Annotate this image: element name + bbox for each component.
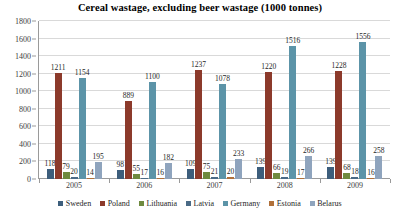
bar-estonia[interactable] bbox=[367, 178, 374, 179]
bar-sweden[interactable] bbox=[187, 169, 194, 179]
bar-latvia[interactable] bbox=[351, 177, 358, 179]
bar-lithuania[interactable] bbox=[63, 172, 70, 179]
bar-value-label: 19 bbox=[281, 168, 289, 176]
bar-belarus[interactable] bbox=[165, 163, 172, 179]
bar-slot: 139 bbox=[257, 21, 264, 179]
bar-poland[interactable] bbox=[125, 101, 132, 179]
legend-item-sweden[interactable]: Sweden bbox=[58, 199, 91, 208]
bar-slot: 98 bbox=[117, 21, 124, 179]
bar-value-label: 55 bbox=[133, 165, 141, 173]
bar-germany[interactable] bbox=[289, 46, 296, 179]
legend-label: Belarus bbox=[317, 199, 341, 208]
bar-value-label: 266 bbox=[303, 147, 314, 155]
bar-sweden[interactable] bbox=[257, 167, 264, 179]
bar-poland[interactable] bbox=[55, 73, 62, 179]
bar-belarus[interactable] bbox=[235, 159, 242, 179]
bar-belarus[interactable] bbox=[375, 156, 382, 179]
bar-poland[interactable] bbox=[195, 70, 202, 179]
y-tick-label: 1600 bbox=[15, 34, 31, 43]
legend-label: Poland bbox=[108, 199, 130, 208]
y-tick-label: 1800 bbox=[15, 17, 31, 26]
bar-germany[interactable] bbox=[359, 42, 366, 179]
y-tick-mark bbox=[32, 56, 36, 57]
bar-value-label: 17 bbox=[297, 169, 305, 177]
bar-slot: 79 bbox=[63, 21, 70, 179]
bar-group: 13912206619151617266 bbox=[250, 21, 320, 179]
bar-estonia[interactable] bbox=[87, 178, 94, 179]
legend-item-germany[interactable]: Germany bbox=[223, 199, 260, 208]
legend-item-lithuania[interactable]: Lithuania bbox=[139, 199, 177, 208]
y-tick-mark bbox=[32, 108, 36, 109]
legend-label: Lithuania bbox=[146, 199, 177, 208]
bar-value-label: 75 bbox=[203, 163, 211, 171]
legend-item-poland[interactable]: Poland bbox=[100, 199, 130, 208]
bar-poland[interactable] bbox=[265, 72, 272, 179]
y-tick-label: 1400 bbox=[15, 52, 31, 61]
bar-estonia[interactable] bbox=[297, 178, 304, 179]
bar-slot: 1211 bbox=[55, 21, 62, 179]
bar-germany[interactable] bbox=[79, 78, 86, 179]
bar-value-label: 16 bbox=[367, 169, 375, 177]
legend-label: Germany bbox=[230, 199, 260, 208]
y-tick-label: 800 bbox=[19, 104, 31, 113]
bar-slot: 1237 bbox=[195, 21, 202, 179]
bar-value-label: 182 bbox=[163, 154, 174, 162]
y-tick-mark bbox=[32, 143, 36, 144]
legend-swatch-icon bbox=[223, 201, 228, 206]
bar-sweden[interactable] bbox=[117, 170, 124, 179]
bar-latvia[interactable] bbox=[211, 177, 218, 179]
bar-group: 988895517110016182 bbox=[109, 21, 179, 179]
legend-item-estonia[interactable]: Estonia bbox=[269, 199, 301, 208]
bar-sweden[interactable] bbox=[327, 167, 334, 179]
bar-slot: 139 bbox=[327, 21, 334, 179]
bar-slot: 266 bbox=[305, 21, 312, 179]
bar-slot: 258 bbox=[375, 21, 382, 179]
bar-estonia[interactable] bbox=[227, 177, 234, 179]
bar-lithuania[interactable] bbox=[273, 173, 280, 179]
bar-germany[interactable] bbox=[149, 82, 156, 179]
legend-item-belarus[interactable]: Belarus bbox=[310, 199, 342, 208]
legend-item-latvia[interactable]: Latvia bbox=[186, 199, 214, 208]
bar-latvia[interactable] bbox=[141, 178, 148, 179]
x-tick-mark bbox=[250, 179, 251, 183]
x-tick-mark bbox=[390, 179, 391, 183]
y-tick-label: 1000 bbox=[15, 87, 31, 96]
bar-lithuania[interactable] bbox=[133, 174, 140, 179]
bar-latvia[interactable] bbox=[71, 177, 78, 179]
y-tick-mark bbox=[32, 38, 36, 39]
x-tick-label: 2008 bbox=[250, 181, 320, 190]
bar-belarus[interactable] bbox=[95, 162, 102, 179]
x-axis: 20052006200720082009 bbox=[39, 181, 390, 190]
bar-slot: 195 bbox=[95, 21, 102, 179]
bar-latvia[interactable] bbox=[281, 177, 288, 179]
chart-legend: SwedenPolandLithuaniaLatviaGermanyEstoni… bbox=[0, 199, 400, 208]
y-tick-mark bbox=[32, 73, 36, 74]
y-tick-label: 1200 bbox=[15, 69, 31, 78]
legend-swatch-icon bbox=[310, 201, 315, 206]
bar-value-label: 195 bbox=[92, 153, 103, 161]
bar-value-label: 79 bbox=[62, 163, 70, 171]
y-tick-label: 600 bbox=[19, 122, 31, 131]
legend-label: Latvia bbox=[194, 199, 214, 208]
bar-lithuania[interactable] bbox=[343, 173, 350, 179]
bar-belarus[interactable] bbox=[305, 156, 312, 179]
bar-lithuania[interactable] bbox=[203, 172, 210, 179]
y-tick-mark bbox=[32, 91, 36, 92]
bar-germany[interactable] bbox=[219, 84, 226, 179]
y-axis: 020040060080010001200140016001800 bbox=[0, 21, 36, 179]
bar-slot: 18 bbox=[351, 21, 358, 179]
legend-label: Sweden bbox=[66, 199, 91, 208]
bar-row: 10912377521107820233 bbox=[179, 21, 249, 179]
bar-estonia[interactable] bbox=[157, 178, 164, 179]
y-tick-mark bbox=[32, 161, 36, 162]
x-tick-mark bbox=[179, 179, 180, 183]
legend-swatch-icon bbox=[186, 201, 191, 206]
bar-slot: 1516 bbox=[289, 21, 296, 179]
bar-value-label: 20 bbox=[227, 168, 235, 176]
bar-poland[interactable] bbox=[335, 71, 342, 179]
bar-group: 10912377521107820233 bbox=[179, 21, 249, 179]
bar-sweden[interactable] bbox=[47, 169, 54, 179]
bar-slot: 1228 bbox=[335, 21, 342, 179]
chart-container: Cereal wastage, excluding beer wastage (… bbox=[0, 0, 400, 222]
x-tick-label: 2006 bbox=[109, 181, 179, 190]
